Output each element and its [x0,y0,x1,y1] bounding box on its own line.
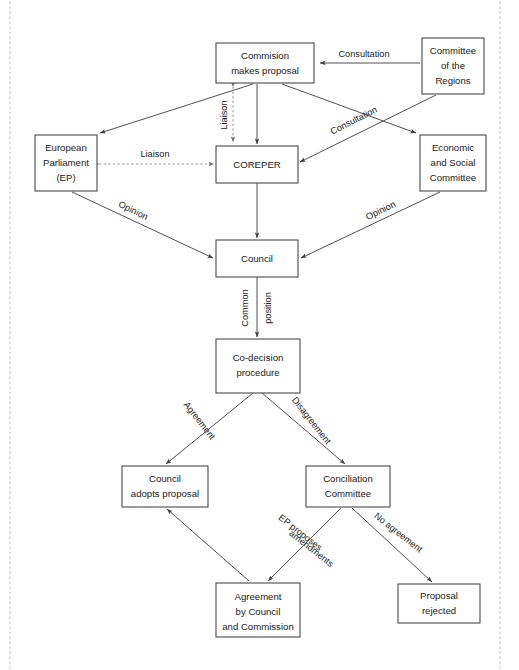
node-agreement-line2: by Council [236,606,281,617]
edge-label-liaison-vertical: Liaison [219,100,229,129]
node-rejected-line2: rejected [422,605,456,616]
node-adopts-line1: Council [149,473,181,484]
node-regions-line1: Committee [430,45,476,56]
node-adopts-line2: adopts proposal [131,488,199,499]
node-agreement-line3: and Commission [222,621,293,632]
node-commission-line2: makes proposal [231,65,299,76]
node-conciliation-line2: Committee [325,488,371,499]
node-regions-line2: of the [441,60,465,71]
edge-regions-to-commission: Consultation [320,49,420,63]
edge-liaison-ep-coreper: Liaison [99,149,214,164]
node-commission-line1: Commision [241,50,289,61]
node-economic-and-social-committee[interactable]: Economic and Social Committee [420,135,486,191]
edge-codecision-to-conciliation: Disagreement [262,393,345,464]
edge-council-to-codecision: Common position [240,277,273,337]
edge-label-consultation-regions: Consultation [338,49,389,59]
node-ep-line3: (EP) [56,172,75,183]
node-economic-line1: Economic [432,142,474,153]
edge-agreement-to-council-adopts [167,509,249,581]
node-rejected-line1: Proposal [420,590,458,601]
eu-codecision-flowchart: Consultation Liaison Liaison Consultatio… [0,0,519,670]
edge-label-position: position [263,292,273,324]
node-committee-of-the-regions[interactable]: Committee of the Regions [422,38,484,94]
edge-label-consultation-economic: Consultation [329,104,379,136]
node-coreper[interactable]: COREPER [216,146,298,183]
page-frame-decoration [10,2,500,668]
node-codecision-procedure[interactable]: Co-decision procedure [216,339,300,393]
node-economic-line2: and Social [431,157,476,168]
edge-commission-to-economic: Consultation [282,84,416,137]
node-council[interactable]: Council [216,240,298,277]
edge-label-agreement: Agreement [182,400,218,442]
node-codecision-line1: Co-decision [233,352,284,363]
node-agreement-line1: Agreement [235,591,282,602]
node-codecision-line2: procedure [236,367,279,378]
edge-label-opinion-right: Opinion [364,199,397,222]
edge-label-opinion-left: Opinion [117,199,150,222]
node-regions-line3: Regions [435,75,470,86]
diagram-canvas: Consultation Liaison Liaison Consultatio… [0,0,519,670]
edge-conciliation-to-rejected: No agreement [352,508,432,582]
node-conciliation-committee[interactable]: Conciliation Committee [306,466,390,507]
edge-conciliation-to-agreement: EP proposes amendments [268,508,341,581]
node-agreement-by-council-and-commission[interactable]: Agreement by Council and Commission [216,583,300,637]
node-ep-line1: European [45,142,87,153]
edge-label-no-agreement: No agreement [372,511,424,555]
node-conciliation-line1: Conciliation [323,473,373,484]
node-economic-line3: Committee [430,172,476,183]
node-proposal-rejected[interactable]: Proposal rejected [398,584,480,623]
edge-label-common: Common [240,289,250,326]
edge-ep-to-council: Opinion [72,192,213,258]
node-coreper-line1: COREPER [233,159,281,170]
edge-label-liaison-horizontal: Liaison [140,149,169,159]
edge-label-disagreement: Disagreement [290,395,333,447]
edge-codecision-to-council-adopts: Agreement [166,393,253,464]
node-council-line1: Council [241,253,273,264]
edge-liaison-commission-coreper: Liaison [219,87,233,142]
node-council-adopts-proposal[interactable]: Council adopts proposal [122,466,208,507]
edge-regions-to-coreper [300,95,436,162]
edge-commission-to-ep [100,84,253,133]
node-ep-line2: Parliament [43,157,89,168]
edge-economic-to-council: Opinion [301,192,440,258]
node-commission[interactable]: Commision makes proposal [216,43,314,83]
node-european-parliament[interactable]: European Parliament (EP) [35,135,97,191]
